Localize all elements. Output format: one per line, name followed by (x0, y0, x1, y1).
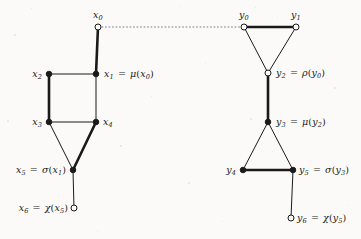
node-y4[interactable] (240, 167, 246, 173)
label-y0: y0 (239, 10, 249, 20)
label-y3: y3 = μ(y2) (276, 117, 326, 127)
node-y2[interactable] (265, 70, 271, 76)
node-y6[interactable] (288, 215, 294, 221)
node-y1[interactable] (293, 24, 299, 30)
edges-layer (49, 27, 296, 218)
label-x1: x1 = μ(x0) (104, 69, 154, 79)
edge-y0-y2 (244, 27, 268, 73)
edge-x3-x5 (49, 122, 73, 170)
edge-x0-x1 (96, 27, 98, 74)
label-y1: y1 (291, 10, 301, 20)
edge-y3-y4 (243, 122, 268, 170)
label-y4: y4 (226, 165, 236, 175)
edge-x5-x6 (73, 170, 74, 208)
node-x0[interactable] (95, 24, 101, 30)
label-y6: y6 = χ(y5) (297, 213, 346, 223)
paper-speck (188, 182, 190, 184)
node-y5[interactable] (290, 167, 296, 173)
paper-speck (250, 118, 252, 120)
label-x3: x3 (32, 117, 42, 127)
label-x0: x0 (93, 10, 103, 20)
label-y2: y2 = ρ(y0) (276, 68, 325, 78)
node-y0[interactable] (241, 24, 247, 30)
node-y3[interactable] (265, 119, 271, 125)
paper-speck (7, 120, 9, 122)
node-x2[interactable] (46, 71, 52, 77)
edge-x4-x5 (73, 122, 96, 170)
edge-y5-y6 (291, 170, 293, 218)
label-x6: x6 = χ(x5) (19, 203, 68, 213)
node-x4[interactable] (93, 119, 99, 125)
node-x5[interactable] (70, 167, 76, 173)
paper-speck (334, 87, 336, 89)
paper-speck (120, 145, 122, 147)
label-x2: x2 (32, 69, 42, 79)
node-x1[interactable] (93, 71, 99, 77)
graph-figure: x0x1 = μ(x0)x2x3x4x5 = σ(x1)x6 = χ(x5)y0… (0, 0, 361, 239)
node-x3[interactable] (46, 119, 52, 125)
label-x5: x5 = σ(x1) (16, 165, 66, 175)
label-y5: y5 = σ(y3) (299, 165, 349, 175)
edge-y3-y5 (268, 122, 293, 170)
paper-speck (14, 34, 16, 36)
node-x6[interactable] (71, 205, 77, 211)
label-x4: x4 (103, 117, 113, 127)
